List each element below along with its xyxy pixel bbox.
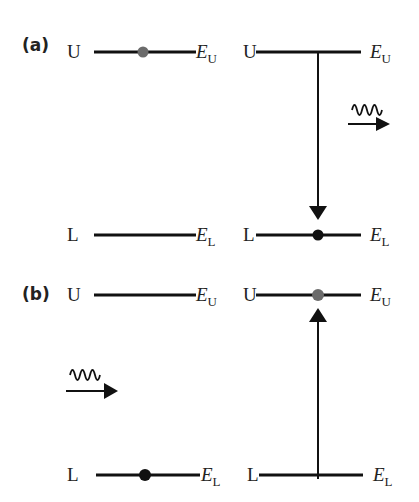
excited-electron-dot	[312, 289, 324, 301]
energy-label-el: EL	[195, 224, 216, 249]
panel-a-label: (a)	[22, 35, 49, 55]
energy-label-eu: EU	[195, 284, 218, 309]
arrowhead-right-icon	[104, 383, 118, 399]
level-letter-upper: U	[243, 41, 257, 62]
level-letter-upper: U	[67, 284, 81, 305]
energy-label-el: EL	[372, 464, 393, 489]
energy-level-diagram: (a) U EU U EU L EL L EL (b) U EU U EU L …	[0, 0, 419, 502]
arrowhead-up-icon	[309, 308, 327, 322]
arrowhead-right-icon	[376, 117, 390, 131]
arrowhead-down-icon	[309, 206, 327, 220]
energy-label-el: EL	[200, 464, 221, 489]
energy-label-eu: EU	[369, 41, 392, 66]
panel-b-label: (b)	[22, 284, 50, 304]
ground-electron-dot	[139, 469, 151, 481]
level-letter-upper: U	[243, 284, 257, 305]
level-letter-lower: L	[67, 464, 79, 485]
energy-label-eu: EU	[195, 41, 218, 66]
energy-label-eu: EU	[369, 284, 392, 309]
level-letter-upper: U	[67, 41, 81, 62]
excited-electron-dot	[138, 47, 149, 58]
photon-wave-icon	[352, 105, 382, 115]
level-letter-lower: L	[67, 224, 79, 245]
level-letter-lower: L	[243, 224, 255, 245]
photon-wave-icon	[70, 370, 100, 380]
ground-electron-dot	[313, 230, 324, 241]
energy-label-el: EL	[369, 224, 390, 249]
level-letter-lower: L	[247, 464, 259, 485]
